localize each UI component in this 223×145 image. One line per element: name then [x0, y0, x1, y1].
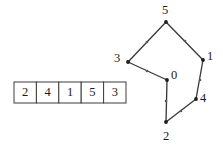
- polygon-vertices-group: [126, 20, 205, 124]
- edge-midpoint-dot-4: [165, 100, 168, 103]
- vertex-dot-5[interactable]: [164, 20, 168, 24]
- edge-midpoint-dot-3: [180, 110, 183, 113]
- edge-midpoint-dot-5: [146, 70, 149, 73]
- figure-root: 24153 012345: [0, 0, 223, 145]
- vertex-label-4: 4: [200, 91, 207, 105]
- array-cell-value-2: 1: [67, 85, 73, 99]
- array-cell-value-1: 4: [44, 85, 51, 99]
- diagram-canvas: 24153 012345: [0, 0, 223, 145]
- edge-midpoint-dot-1: [184, 40, 187, 43]
- array-cell-value-4: 3: [112, 85, 118, 99]
- array-group: 24153: [14, 82, 126, 103]
- vertex-label-0: 0: [171, 68, 177, 82]
- vertex-dot-3[interactable]: [126, 60, 130, 64]
- vertex-label-5: 5: [162, 3, 168, 17]
- polygon-edges-group: [128, 22, 203, 122]
- vertex-label-3: 3: [114, 51, 120, 65]
- array-cell-value-3: 5: [89, 85, 95, 99]
- edge-midpoint-dot-0: [146, 41, 149, 44]
- vertex-dot-2[interactable]: [164, 120, 168, 124]
- vertex-dot-1[interactable]: [201, 58, 205, 62]
- vertex-dot-4[interactable]: [194, 97, 198, 101]
- vertex-label-1: 1: [207, 49, 213, 63]
- vertex-dot-0[interactable]: [165, 78, 169, 82]
- array-cell-value-0: 2: [22, 85, 28, 99]
- vertex-label-2: 2: [163, 129, 169, 143]
- edge-midpoint-dot-2: [199, 79, 202, 82]
